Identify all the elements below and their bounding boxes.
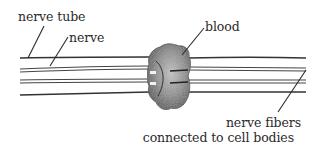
label-nerve-tube: nerve tube [18, 10, 85, 23]
label-connected-to-cell-bodies: connected to cell bodies [143, 131, 294, 144]
label-nerve: nerve [69, 31, 104, 44]
nerve-fibers-leader [278, 70, 306, 112]
blood-leader [182, 28, 204, 55]
fiber-end-highlight [150, 71, 156, 74]
blood-clot-blob [147, 44, 190, 110]
nerve-leader [50, 37, 68, 66]
fiber-end-highlight [150, 82, 156, 85]
nerve-diagram: nerve tube nerve blood nerve fibers conn… [0, 0, 326, 146]
nerve-tube-leader [28, 26, 44, 58]
label-blood: blood [205, 20, 240, 33]
label-nerve-fibers: nerve fibers [226, 116, 301, 129]
